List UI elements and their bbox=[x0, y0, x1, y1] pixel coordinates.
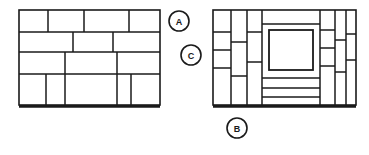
right-panel bbox=[213, 10, 356, 106]
callout-c-label: C bbox=[188, 51, 195, 61]
callout-a[interactable]: A bbox=[169, 11, 189, 31]
panel-diagram-figure: A C B bbox=[0, 0, 369, 155]
left-panel-outline bbox=[19, 10, 160, 105]
left-panel bbox=[19, 10, 160, 106]
callout-c[interactable]: C bbox=[181, 45, 201, 65]
figure-root: A C B bbox=[0, 0, 369, 155]
right-panel-center-inner-box bbox=[269, 30, 313, 70]
callout-b-label: B bbox=[234, 124, 241, 134]
callout-b[interactable]: B bbox=[227, 118, 247, 138]
callout-a-label: A bbox=[176, 17, 183, 27]
